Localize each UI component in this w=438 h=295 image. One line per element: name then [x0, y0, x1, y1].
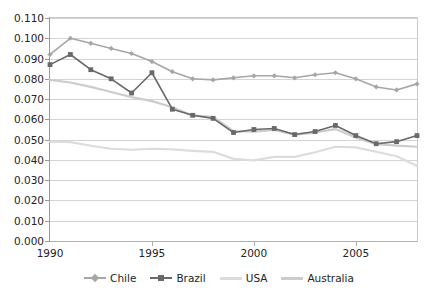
data-point-marker — [149, 59, 154, 64]
data-point-marker — [251, 127, 256, 132]
data-point-marker — [88, 67, 93, 72]
data-point-marker — [190, 76, 195, 81]
series-line — [50, 38, 417, 90]
legend-item-chile[interactable]: Chile — [84, 273, 136, 284]
data-point-marker — [129, 51, 134, 56]
legend-label: Brazil — [176, 273, 205, 284]
legend-item-usa[interactable]: USA — [220, 273, 268, 284]
data-point-marker — [129, 91, 134, 96]
data-point-marker — [374, 84, 379, 89]
series-australia — [50, 80, 417, 147]
chart-container: 0.0000.0100.0200.0300.0400.0500.0600.070… — [0, 0, 438, 295]
data-point-marker — [68, 52, 73, 57]
legend-label: USA — [246, 273, 268, 284]
data-point-marker — [353, 76, 358, 81]
data-point-marker — [292, 75, 297, 80]
data-point-marker — [415, 133, 420, 138]
data-point-marker — [272, 73, 277, 78]
legend-swatch-usa-icon — [220, 273, 242, 283]
data-point-marker — [394, 139, 399, 144]
data-point-marker — [313, 129, 318, 134]
data-point-marker — [231, 75, 236, 80]
data-point-marker — [414, 81, 419, 86]
data-point-marker — [374, 141, 379, 146]
data-point-marker — [312, 72, 317, 77]
data-point-marker — [170, 69, 175, 74]
legend-label: Chile — [110, 273, 136, 284]
data-point-marker — [190, 113, 195, 118]
data-point-marker — [333, 123, 338, 128]
series-usa — [50, 142, 417, 166]
data-point-marker — [211, 77, 216, 82]
data-series-layer — [0, 0, 438, 295]
data-point-marker — [170, 107, 175, 112]
series-brazil — [48, 52, 420, 146]
series-line — [50, 80, 417, 147]
data-point-marker — [109, 76, 114, 81]
data-point-marker — [251, 73, 256, 78]
data-point-marker — [109, 46, 114, 51]
legend-swatch-brazil-icon — [150, 273, 172, 283]
data-point-marker — [88, 41, 93, 46]
data-point-marker — [292, 132, 297, 137]
legend-swatch-chile-icon — [84, 273, 106, 283]
data-point-marker — [353, 133, 358, 138]
data-point-marker — [272, 126, 277, 131]
legend-item-brazil[interactable]: Brazil — [150, 273, 205, 284]
legend-swatch-australia-icon — [281, 273, 303, 283]
legend-item-australia[interactable]: Australia — [281, 273, 353, 284]
data-point-marker — [211, 116, 216, 121]
series-chile — [47, 36, 419, 93]
chart-legend: ChileBrazilUSAAustralia — [0, 269, 438, 287]
data-point-marker — [231, 130, 236, 135]
data-point-marker — [150, 70, 155, 75]
legend-label: Australia — [307, 273, 353, 284]
data-point-marker — [394, 87, 399, 92]
data-point-marker — [48, 62, 53, 67]
series-line — [50, 142, 417, 166]
data-point-marker — [333, 70, 338, 75]
